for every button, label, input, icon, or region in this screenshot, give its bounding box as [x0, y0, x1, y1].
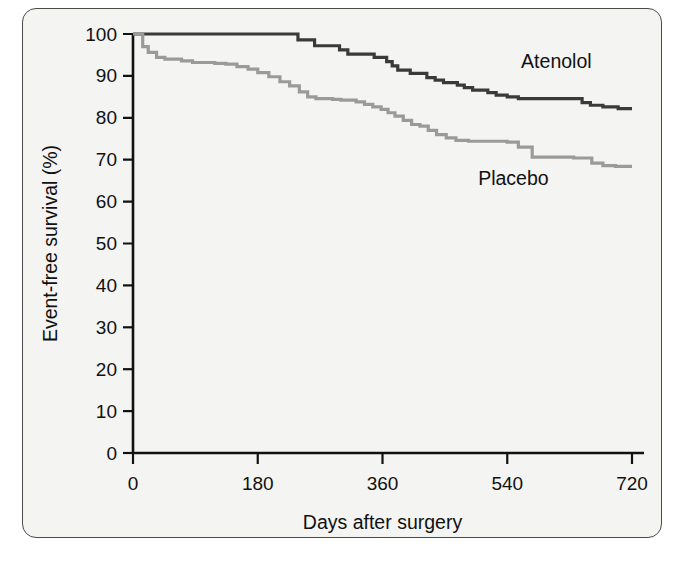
- y-axis-tick-label: 80: [96, 107, 117, 128]
- x-axis-tick-label: 180: [242, 473, 274, 494]
- y-axis-tick-label: 70: [96, 149, 117, 170]
- y-axis-tick-label: 10: [96, 401, 117, 422]
- figure-caption-strip: [22, 545, 662, 565]
- y-axis-tick-label: 0: [106, 443, 117, 464]
- y-axis-tick-label: 40: [96, 275, 117, 296]
- figure-panel: 01020304050607080901000180360540720Days …: [22, 8, 662, 538]
- y-axis-tick-label: 50: [96, 233, 117, 254]
- y-axis-tick-label: 90: [96, 65, 117, 86]
- y-axis-tick-label: 100: [85, 24, 117, 45]
- series-label-placebo: Placebo: [478, 167, 549, 189]
- x-axis-tick-label: 0: [128, 473, 139, 494]
- series-label-atenolol: Atenolol: [521, 50, 591, 72]
- survival-chart: 01020304050607080901000180360540720Days …: [23, 9, 662, 538]
- x-axis-tick-label: 360: [367, 473, 399, 494]
- y-axis-tick-label: 30: [96, 317, 117, 338]
- x-axis-tick-label: 540: [491, 473, 523, 494]
- y-axis-title: Event-free survival (%): [39, 145, 61, 342]
- y-axis-tick-label: 60: [96, 191, 117, 212]
- x-axis-title: Days after surgery: [303, 511, 463, 533]
- x-axis-tick-label: 720: [616, 473, 648, 494]
- y-axis-tick-label: 20: [96, 359, 117, 380]
